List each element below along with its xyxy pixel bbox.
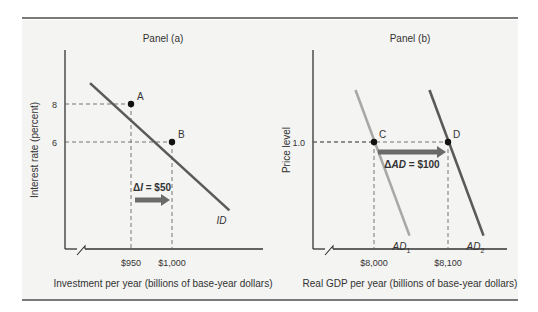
point-label-b: B xyxy=(178,129,185,140)
panel-1-shift-arrow-shaft xyxy=(378,150,438,155)
shift-amount: = $50 xyxy=(143,182,172,193)
panel-0-shift-arrow-shaft xyxy=(135,198,162,203)
panel-a-title: Panel (a) xyxy=(143,33,184,44)
series-label-id: ID xyxy=(216,215,226,226)
panel-b-y-axis-title: Price level xyxy=(281,127,292,173)
panel-a-y-axis-title: Interest rate (percent) xyxy=(29,102,40,198)
shift-variable: AD xyxy=(391,159,406,170)
panel-1-x-tick-label: $8,100 xyxy=(434,258,462,268)
panel-b-x-axis-title: Real GDP per year (billions of base-year… xyxy=(303,278,518,289)
point-d xyxy=(445,139,451,145)
panel-b-title: Panel (b) xyxy=(390,33,431,44)
panel-1-shift-label: ΔAD = $100 xyxy=(384,159,440,170)
point-label-a: A xyxy=(137,91,144,102)
panel-0-x-tick-label: $1,000 xyxy=(158,258,186,268)
series-label-subscript: 2 xyxy=(481,247,485,254)
point-a xyxy=(128,101,134,107)
figure: Panel (a) Investment per year (billions … xyxy=(0,0,538,312)
panel-0-y-tick-label: 6 xyxy=(52,138,57,148)
point-c xyxy=(371,139,377,145)
delta-symbol: Δ xyxy=(133,182,140,193)
point-label-d: D xyxy=(453,129,460,140)
panel-0-y-tick-label: 8 xyxy=(52,100,57,110)
delta-symbol: Δ xyxy=(384,159,391,170)
series-label-subscript: 1 xyxy=(407,247,411,254)
panel-1-y-tick-label: 1.0 xyxy=(292,138,305,148)
panel-0-x-tick-label: $950 xyxy=(121,258,141,268)
panel-0-shift-label: ΔI = $50 xyxy=(133,182,171,193)
panel-a-x-axis-title: Investment per year (billions of base-ye… xyxy=(54,278,273,289)
panel-1-x-tick-label: $8,000 xyxy=(360,258,388,268)
shift-amount: = $100 xyxy=(406,159,440,170)
point-label-c: C xyxy=(379,129,386,140)
point-b xyxy=(169,139,175,145)
